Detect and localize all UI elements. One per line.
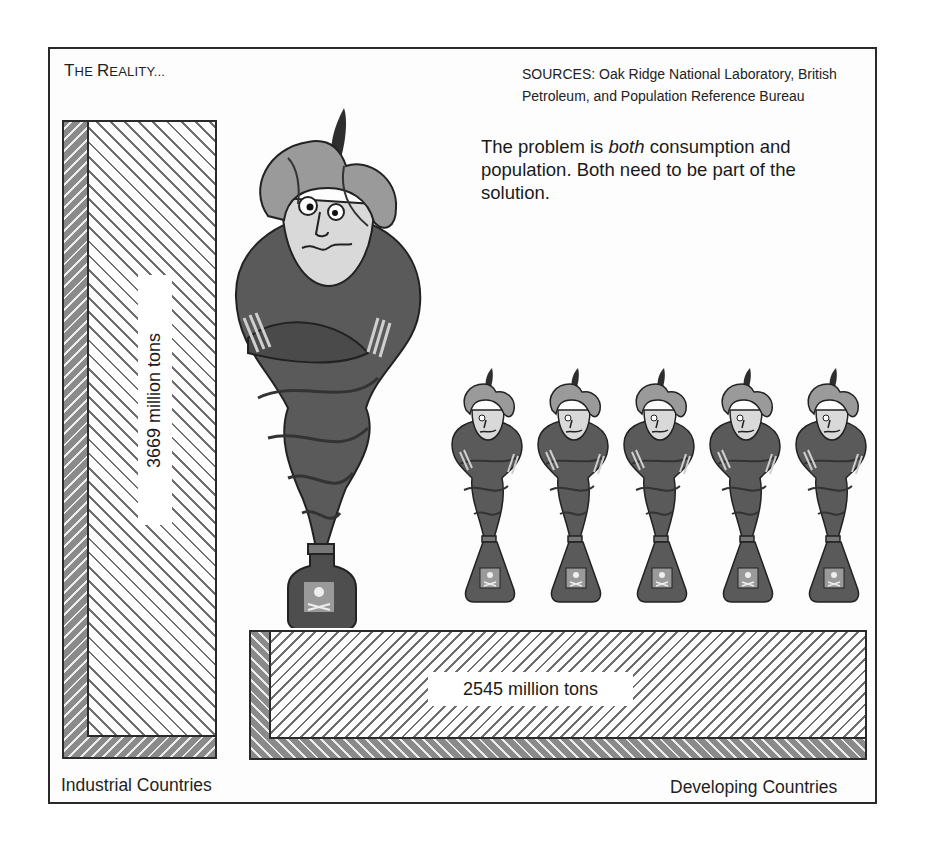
small-genie-4: [708, 368, 788, 608]
category-label-industrial: Industrial Countries: [61, 775, 212, 796]
small-genie-1: [450, 368, 530, 608]
chart-title: THE REALITY...: [64, 61, 165, 81]
sources-note: SOURCES: Oak Ridge National Laboratory, …: [522, 63, 872, 107]
genie-figure: [710, 368, 780, 538]
poison-bottle-icon: [465, 536, 514, 602]
bar-developing-value: 2545 million tons: [428, 672, 633, 706]
genie-figure: [624, 368, 694, 538]
poison-bottle-icon: [551, 536, 600, 602]
small-genie-5: [794, 368, 874, 608]
category-label-developing: Developing Countries: [670, 777, 837, 798]
poison-bottle-icon: [637, 536, 686, 602]
large-genie-illustration: [228, 108, 428, 628]
small-genie-2: [536, 368, 616, 608]
poison-bottle-icon: [809, 536, 858, 602]
poison-bottle-icon: [288, 544, 356, 628]
small-genie-3: [622, 368, 702, 608]
message-text: The problem is both consumption and popu…: [481, 135, 801, 204]
bar-industrial-value: 3669 million tons: [138, 275, 172, 525]
poison-bottle-icon: [723, 536, 772, 602]
genie-figure: [452, 368, 522, 538]
genie-figure: [538, 368, 608, 538]
genie-figure: [796, 368, 866, 538]
